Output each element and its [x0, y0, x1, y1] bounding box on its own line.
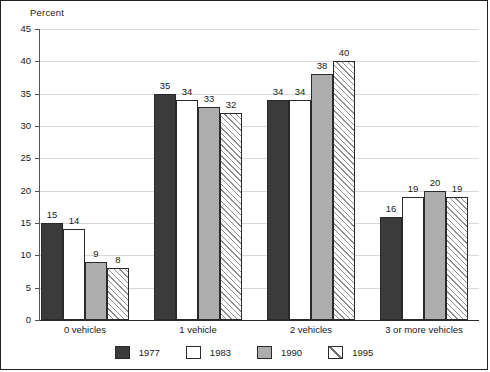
bar: [85, 262, 107, 320]
bar: [176, 100, 198, 320]
bar: [63, 229, 85, 320]
bar-value-label: 40: [331, 47, 357, 58]
bar: [446, 197, 468, 320]
legend-swatch: [115, 346, 130, 359]
legend-swatch: [186, 346, 201, 359]
legend-item[interactable]: 1995: [328, 346, 373, 359]
gridline: [40, 126, 479, 127]
legend-label: 1983: [210, 347, 231, 358]
gridline: [40, 94, 479, 95]
y-axis-tick-label: 0: [1, 314, 31, 325]
legend-item[interactable]: 1977: [115, 346, 160, 359]
bar: [154, 94, 176, 320]
legend: 1977198319901995: [1, 346, 487, 359]
bar: [41, 223, 63, 320]
bar: [333, 61, 355, 320]
y-axis-tick-label: 40: [1, 55, 31, 66]
x-axis-category-label: 0 vehicles: [30, 324, 140, 335]
bar: [267, 100, 289, 320]
bar-value-label: 38: [309, 60, 335, 71]
bar-value-label: 19: [444, 183, 470, 194]
legend-label: 1990: [281, 347, 302, 358]
y-axis-tick-label: 45: [1, 23, 31, 34]
x-axis-category-label: 3 or more vehicles: [369, 324, 479, 335]
y-axis-tick-label: 25: [1, 152, 31, 163]
gridline: [40, 29, 479, 30]
plot-area: 151498353433323434384016192019: [40, 29, 479, 320]
legend-swatch: [257, 346, 272, 359]
chart-frame: Percent 051015202530354045 1514983534333…: [0, 0, 488, 370]
y-axis-tick-label: 15: [1, 217, 31, 228]
y-axis-title: Percent: [30, 7, 64, 18]
bar: [198, 107, 220, 320]
y-axis-tick-label: 30: [1, 120, 31, 131]
bar: [402, 197, 424, 320]
bar-value-label: 32: [218, 99, 244, 110]
x-axis-category-label: 2 vehicles: [256, 324, 366, 335]
bar: [311, 74, 333, 320]
bar: [380, 217, 402, 320]
bar: [107, 268, 129, 320]
gridline: [40, 61, 479, 62]
y-axis-tick-label: 35: [1, 88, 31, 99]
bar-value-label: 16: [378, 203, 404, 214]
legend-item[interactable]: 1990: [257, 346, 302, 359]
x-axis-category-label: 1 vehicle: [143, 324, 253, 335]
legend-swatch: [328, 346, 343, 359]
gridline: [40, 158, 479, 159]
axis-baseline: [40, 320, 479, 321]
legend-label: 1995: [352, 347, 373, 358]
bar-value-label: 34: [287, 86, 313, 97]
bar-value-label: 8: [105, 254, 131, 265]
legend-item[interactable]: 1983: [186, 346, 231, 359]
legend-label: 1977: [139, 347, 160, 358]
bar: [220, 113, 242, 320]
y-axis-tick-label: 20: [1, 185, 31, 196]
y-axis-tick-label: 5: [1, 282, 31, 293]
bar: [424, 191, 446, 320]
bar: [289, 100, 311, 320]
y-axis-tick-label: 10: [1, 249, 31, 260]
bar-value-label: 14: [61, 215, 87, 226]
